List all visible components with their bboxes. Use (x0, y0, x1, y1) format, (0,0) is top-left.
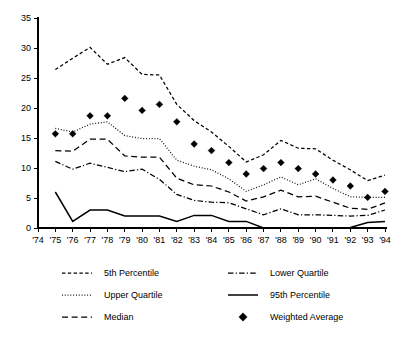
x-tick-label: '81 (154, 235, 166, 245)
legend-item-label: Weighted Average (270, 312, 343, 322)
x-tick-label: '82 (171, 235, 183, 245)
chart-container: 05101520253035 '74'75'76'77'78'79'80'81'… (0, 0, 403, 338)
legend-item-label: Lower Quartile (270, 268, 329, 278)
x-tick-label: '79 (119, 235, 131, 245)
x-tick-label: '74 (32, 235, 44, 245)
x-tick-label: '84 (206, 235, 218, 245)
x-tick-label: '94 (379, 235, 391, 245)
x-tick-label: '87 (258, 235, 270, 245)
x-tick-label: '93 (362, 235, 374, 245)
y-tick-label: 20 (21, 103, 31, 113)
x-tick-label: '75 (49, 235, 61, 245)
x-tick-label: '85 (223, 235, 235, 245)
x-tick-label: '89 (292, 235, 304, 245)
y-tick-label: 15 (21, 133, 31, 143)
y-tick-label: 30 (21, 43, 31, 53)
x-tick-label: '88 (275, 235, 287, 245)
x-tick-label: '77 (84, 235, 96, 245)
x-tick-label: '86 (240, 235, 252, 245)
y-tick-label: 10 (21, 163, 31, 173)
legend-item-label: Upper Quartile (104, 290, 163, 300)
y-tick-label: 25 (21, 73, 31, 83)
x-tick-label: '92 (344, 235, 356, 245)
legend-item-label: Median (104, 312, 134, 322)
y-tick-label: 5 (26, 193, 31, 203)
x-tick-label: '83 (188, 235, 200, 245)
y-tick-label: 35 (21, 13, 31, 23)
chart-background (0, 0, 403, 338)
x-tick-label: '76 (67, 235, 79, 245)
x-tick-label: '78 (102, 235, 114, 245)
x-tick-label: '80 (136, 235, 148, 245)
y-tick-label: 0 (26, 223, 31, 233)
percentile-line-chart: 05101520253035 '74'75'76'77'78'79'80'81'… (0, 0, 403, 338)
x-tick-label: '91 (327, 235, 339, 245)
legend-item-label: 5th Percentile (104, 268, 159, 278)
legend-item-label: 95th Percentile (270, 290, 330, 300)
x-tick-label: '90 (310, 235, 322, 245)
